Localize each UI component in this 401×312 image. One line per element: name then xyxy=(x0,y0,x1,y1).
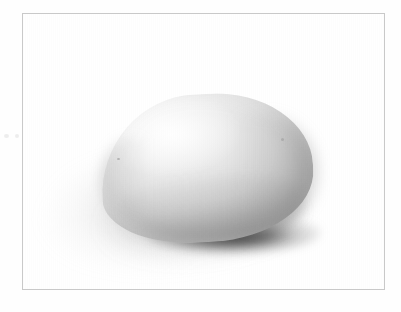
ovoid-object xyxy=(101,94,313,242)
screenshot-root: Pale ovoid teardrop-shaped object restin… xyxy=(0,0,401,312)
photo-frame xyxy=(22,13,385,290)
margin-speck-icon xyxy=(4,134,9,138)
stem-scar-icon xyxy=(117,158,120,160)
margin-speck-icon xyxy=(15,134,19,138)
surface-mark-icon xyxy=(281,138,284,141)
object-right-flank-shading xyxy=(232,115,317,230)
photograph xyxy=(23,14,384,289)
